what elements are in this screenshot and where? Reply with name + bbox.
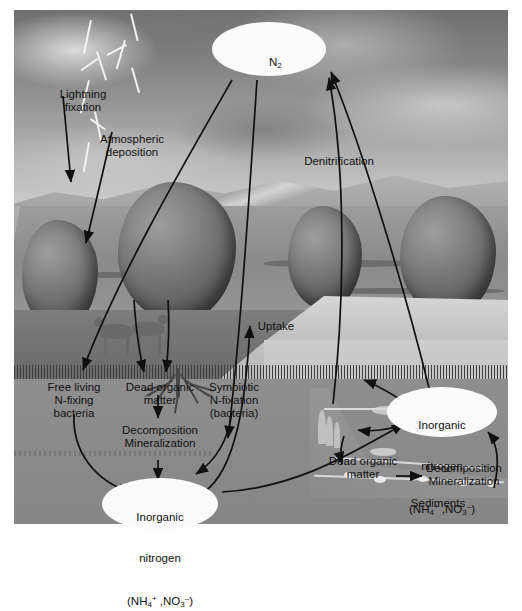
pool-line1: Inorganic xyxy=(385,419,499,433)
label-sediments: Sediments xyxy=(402,497,474,510)
arrow-denitrification-aquatic xyxy=(331,72,430,392)
arrow-plant-to-dom xyxy=(166,300,169,372)
arrow-n2-to-free-living xyxy=(83,80,232,370)
pool-formula: (NH4+ ,NO3–) xyxy=(103,592,217,611)
pool-line1: Inorganic xyxy=(103,511,217,525)
label-symbiotic-n-fixation: Symbiotic N-fixation (bacteria) xyxy=(190,381,278,420)
n2-pool-label: N2 xyxy=(212,42,326,86)
pool-line2: nitrogen xyxy=(103,552,217,566)
label-denitrification: Denitrification xyxy=(291,155,387,168)
terrestrial-pool-label: Inorganic nitrogen (NH4+ ,NO3–) xyxy=(103,484,217,611)
n2-formula: N2 xyxy=(269,56,282,68)
label-free-living-bacteria: Free living N-fixing bacteria xyxy=(30,381,118,420)
arrow-animal-to-dom xyxy=(134,300,144,372)
label-dead-organic-matter-water: Dead organic matter xyxy=(318,455,408,481)
label-uptake: Uptake xyxy=(247,320,305,333)
label-atmospheric-deposition: Atmospheric deposition xyxy=(86,133,178,159)
label-decomposition-water: Decomposition Mineralization xyxy=(414,462,514,488)
label-lightning-fixation: Lightning fixation xyxy=(46,88,120,114)
arrow-denitrification-terrestrial xyxy=(329,78,342,404)
label-decomposition-land: Decomposition Mineralization xyxy=(102,424,218,450)
